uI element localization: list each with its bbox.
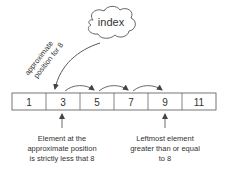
left-annotation-line3: is strictly less that 8 [29, 154, 94, 163]
right-annotation-line3: to 8 [159, 154, 172, 163]
hop-arrow-2 [99, 86, 128, 91]
pointer-label: approximate position for 8 [23, 35, 66, 82]
left-annotation-line2: approximate position [27, 144, 96, 153]
right-annotation: Leftmost element greater than or equal t… [130, 134, 200, 163]
array-cell-1: 3 [60, 97, 66, 108]
array-cell-0: 1 [26, 97, 32, 108]
hop-arrows [65, 86, 162, 91]
right-annotation-line1: Leftmost element [136, 134, 194, 143]
array-cell-3: 7 [128, 97, 134, 108]
right-annotation-line2: greater than or equal [130, 144, 200, 153]
hop-arrow-1 [65, 86, 94, 91]
array-cell-5: 11 [194, 97, 205, 108]
sorted-array: 1 3 5 7 9 11 [12, 93, 216, 110]
hop-arrow-3 [133, 86, 162, 91]
array-cell-4: 9 [162, 97, 168, 108]
binary-search-diagram: index approximate position for 8 1 3 5 7… [0, 0, 229, 177]
index-cloud: index [88, 6, 135, 38]
left-annotation-line1: Element at the [38, 134, 86, 143]
left-annotation: Element at the approximate position is s… [27, 134, 96, 163]
cloud-label: index [98, 16, 125, 28]
array-cell-2: 5 [94, 97, 100, 108]
